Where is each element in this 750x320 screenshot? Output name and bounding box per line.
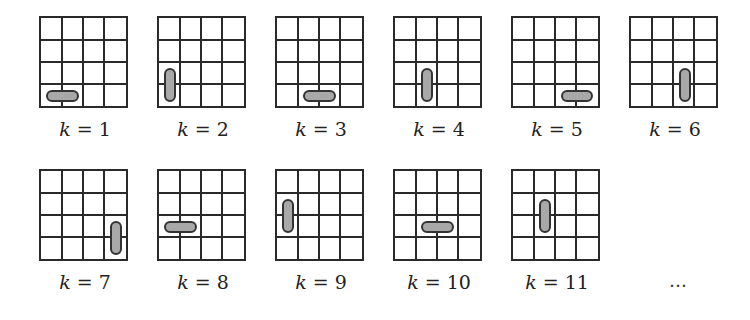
grid-line [159,214,244,216]
label-equals: = [661,118,689,140]
label-equals: = [189,271,217,293]
label-variable: k [649,118,661,140]
panel-label: k = 3 [275,118,367,140]
grid-4x4 [39,169,128,261]
grid-line [395,236,480,238]
label-variable: k [295,271,307,293]
grid-panel-k10: k = 10 [393,169,485,261]
grid-panel-k1: k = 1 [39,16,131,108]
grid-line [395,61,480,63]
label-number: 1 [99,118,111,140]
grid-panel-k9: k = 9 [275,169,367,261]
label-variable: k [413,118,425,140]
label-equals: = [537,271,565,293]
continuation-ellipsis: … [648,270,708,291]
panel-label: k = 4 [393,118,485,140]
label-number: 7 [99,271,111,293]
domino-piece [561,90,594,102]
grid-line [513,192,598,194]
label-variable: k [59,271,71,293]
domino-piece [164,68,176,102]
grid-line [41,39,126,41]
grid-4x4 [275,16,364,108]
grid-line [159,39,244,41]
panel-label: k = 1 [39,118,131,140]
grid-line [41,214,126,216]
panel-label: k = 5 [511,118,603,140]
label-equals: = [419,271,447,293]
grid-panel-k5: k = 5 [511,16,603,108]
domino-piece [421,68,433,102]
grid-line [631,61,716,63]
grid-panel-k6: k = 6 [629,16,721,108]
grid-line [513,61,598,63]
label-number: 4 [453,118,465,140]
label-variable: k [59,118,71,140]
grid-panel-k8: k = 8 [157,169,249,261]
domino-piece [421,221,454,233]
label-number: 2 [217,118,229,140]
label-number: 5 [571,118,583,140]
grid-line [41,192,126,194]
grid-4x4 [39,16,128,108]
label-variable: k [295,118,307,140]
panel-label: k = 6 [629,118,721,140]
grid-line [513,236,598,238]
grid-4x4 [511,16,600,108]
label-number: 10 [447,271,471,293]
domino-piece [303,90,336,102]
grid-4x4 [275,169,364,261]
grid-line [631,83,716,85]
grid-line [395,83,480,85]
label-number: 8 [217,271,229,293]
panel-label: k = 7 [39,271,131,293]
grid-line [159,236,244,238]
grid-4x4 [157,169,246,261]
grid-panel-k4: k = 4 [393,16,485,108]
grid-line [159,61,244,63]
label-number: 11 [565,271,589,293]
grid-line [395,39,480,41]
label-variable: k [525,271,537,293]
grid-4x4 [393,16,482,108]
panel-label: k = 8 [157,271,249,293]
grid-4x4 [157,16,246,108]
label-equals: = [189,118,217,140]
grid-line [513,214,598,216]
domino-piece [164,221,197,233]
label-variable: k [407,271,419,293]
domino-piece [679,68,691,102]
grid-4x4 [511,169,600,261]
label-equals: = [425,118,453,140]
label-equals: = [71,271,99,293]
grid-line [395,214,480,216]
label-equals: = [71,118,99,140]
domino-piece [110,221,122,255]
grid-panel-k2: k = 2 [157,16,249,108]
label-number: 9 [335,271,347,293]
panel-label: k = 10 [393,271,485,293]
grid-line [631,39,716,41]
grid-line [277,61,362,63]
grid-line [513,83,598,85]
domino-piece [46,90,79,102]
grid-4x4 [629,16,718,108]
grid-line [277,236,362,238]
grid-4x4 [393,169,482,261]
label-equals: = [543,118,571,140]
label-number: 3 [335,118,347,140]
label-equals: = [307,271,335,293]
label-variable: k [531,118,543,140]
grid-line [277,83,362,85]
grid-line [277,39,362,41]
panel-label: k = 2 [157,118,249,140]
grid-panel-k11: k = 11 [511,169,603,261]
grid-line [159,192,244,194]
panel-label: k = 9 [275,271,367,293]
grid-line [513,39,598,41]
domino-piece [539,199,551,233]
label-equals: = [307,118,335,140]
label-number: 6 [689,118,701,140]
grid-line [41,61,126,63]
grid-panel-k3: k = 3 [275,16,367,108]
